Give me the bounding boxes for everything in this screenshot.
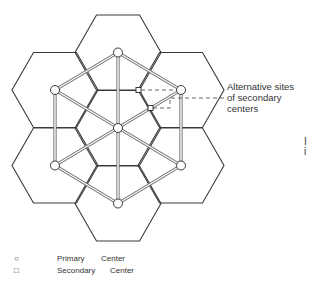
primary-center-icon: [177, 86, 186, 95]
primary-center-icon: [51, 86, 60, 95]
legend-label: Secondary: [57, 266, 95, 275]
square-icon: □: [14, 266, 19, 275]
primary-center-icon: [51, 161, 60, 170]
primary-center-icon: [177, 161, 186, 170]
secondary-sites-annotation: Alternative sites of secondary centers: [227, 81, 294, 114]
legend-label: Center: [101, 254, 125, 263]
primary-center-icon: [114, 48, 123, 57]
legend-label: Primary: [57, 254, 85, 263]
hexagon-network-diagram: [0, 0, 312, 288]
annotation-line: Alternative sites: [227, 81, 294, 92]
secondary-center-icon: [148, 106, 153, 111]
primary-center-icon: [114, 124, 123, 133]
annotation-line: of secondary: [227, 92, 294, 103]
primary-center-icon: [114, 199, 123, 208]
legend-label: Center: [110, 266, 134, 275]
annotation-line: centers: [227, 103, 294, 114]
secondary-center-icon: [136, 88, 141, 93]
cutoff-text: i: [304, 146, 306, 157]
circle-icon: ○: [14, 254, 19, 263]
